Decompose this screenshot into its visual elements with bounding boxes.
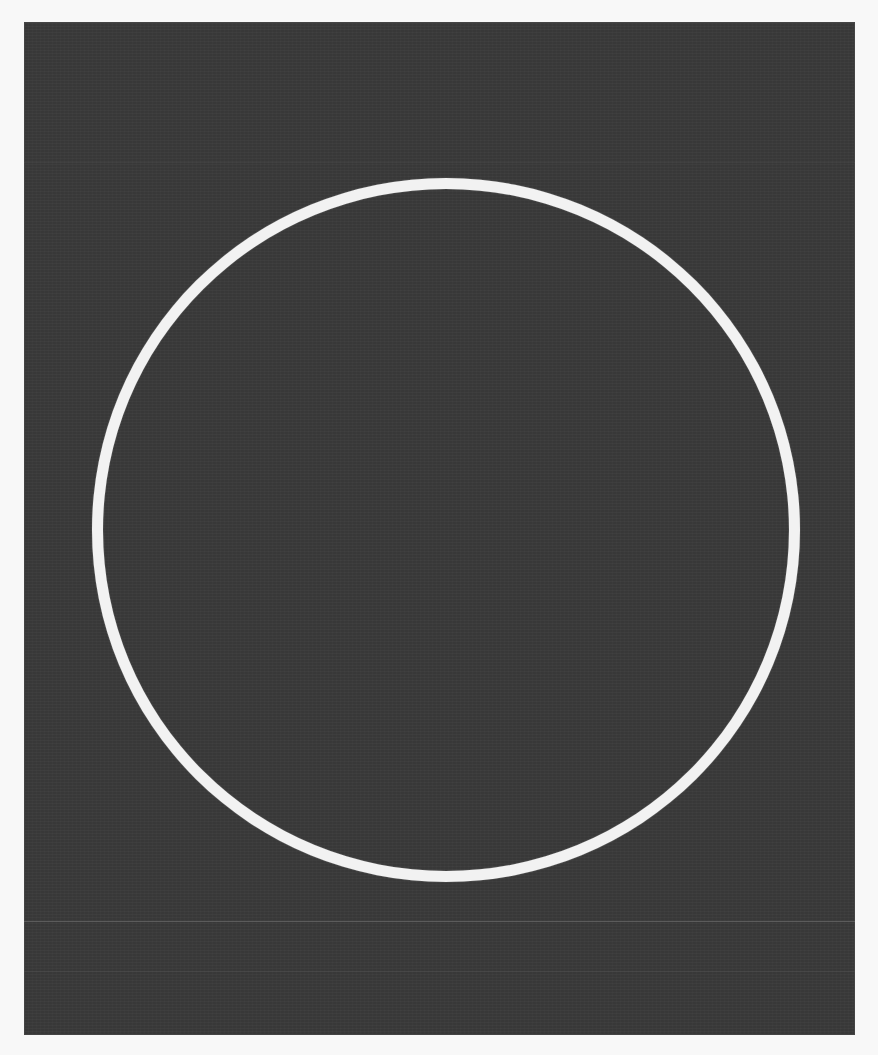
panel-seam-bottom bbox=[24, 971, 855, 972]
white-ring bbox=[92, 178, 800, 882]
panel-seam-top bbox=[24, 162, 855, 163]
panel-seam-lower bbox=[24, 921, 855, 922]
photo-stage: White circular ring on a dark textured p… bbox=[0, 0, 878, 1055]
